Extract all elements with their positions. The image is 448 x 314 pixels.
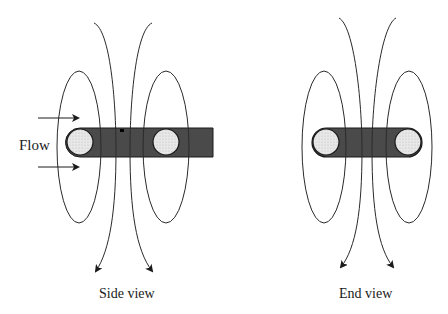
side-view-caption: Side view <box>99 286 155 302</box>
side-left-circle <box>67 129 93 155</box>
end-left-circle <box>313 129 339 155</box>
flow-label: Flow <box>19 137 50 154</box>
end-right-circle <box>395 129 421 155</box>
side-view <box>38 23 213 271</box>
field-diagram <box>0 0 448 314</box>
side-right-circle <box>153 129 179 155</box>
side-marker <box>120 129 124 132</box>
end-view <box>302 18 432 267</box>
end-view-caption: End view <box>339 286 392 302</box>
